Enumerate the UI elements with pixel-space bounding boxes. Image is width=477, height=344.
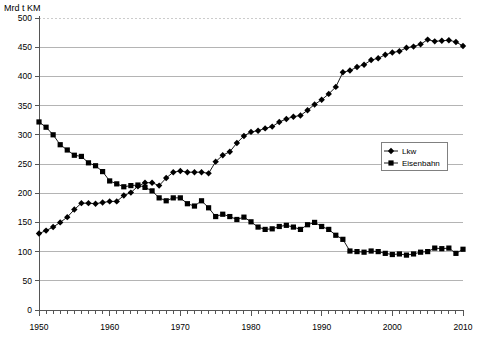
data-point-marker: [248, 219, 253, 224]
data-point-marker: [142, 185, 147, 190]
data-point-marker: [361, 250, 366, 255]
data-point-marker: [128, 183, 133, 188]
y-tick-label: 100: [18, 247, 32, 257]
data-point-marker: [206, 205, 211, 210]
data-point-marker: [72, 153, 77, 158]
data-point-marker: [149, 179, 155, 185]
y-tick-label: 450: [18, 42, 32, 52]
chart-container: Mrd t KM 0501001502002503003504004505001…: [0, 0, 477, 344]
x-tick-label: 2000: [383, 322, 402, 332]
data-point-marker: [43, 125, 48, 130]
data-point-marker: [192, 203, 197, 208]
data-point-marker: [36, 119, 41, 124]
x-tick-label: 1950: [30, 322, 49, 332]
data-point-marker: [248, 129, 254, 135]
data-point-marker: [375, 55, 381, 61]
data-point-marker: [199, 198, 204, 203]
data-point-marker: [389, 49, 395, 55]
data-point-marker: [403, 45, 409, 51]
data-point-marker: [460, 43, 466, 49]
data-point-marker: [404, 253, 409, 258]
data-point-marker: [369, 248, 374, 253]
data-point-marker: [446, 37, 452, 43]
y-tick-label: 0: [27, 305, 32, 315]
data-point-marker: [383, 251, 388, 256]
y-tick-label: 250: [18, 159, 32, 169]
data-point-marker: [290, 113, 296, 119]
x-ticks: 1950196019701980199020002010: [30, 310, 473, 332]
data-point-marker: [100, 169, 105, 174]
data-point-marker: [262, 125, 268, 131]
data-point-marker: [453, 251, 458, 256]
y-tick-label: 150: [18, 217, 32, 227]
data-point-marker: [92, 201, 98, 207]
data-point-marker: [178, 195, 183, 200]
data-point-marker: [51, 132, 56, 137]
data-point-marker: [298, 227, 303, 232]
data-point-marker: [85, 200, 91, 206]
data-point-marker: [411, 251, 416, 256]
data-point-marker: [439, 246, 444, 251]
data-point-marker: [340, 69, 346, 75]
data-point-marker: [241, 215, 246, 220]
data-point-marker: [276, 119, 282, 125]
y-tick-label: 300: [18, 130, 32, 140]
data-point-marker: [36, 230, 42, 236]
data-point-marker: [227, 214, 232, 219]
data-point-marker: [284, 223, 289, 228]
data-point-marker: [198, 169, 204, 175]
data-point-marker: [418, 250, 423, 255]
data-point-marker: [305, 222, 310, 227]
data-point-marker: [376, 249, 381, 254]
data-point-marker: [388, 160, 393, 165]
data-point-marker: [50, 224, 56, 230]
data-point-marker: [312, 220, 317, 225]
data-point-marker: [439, 38, 445, 44]
legend: LkwEisenbahn: [381, 142, 447, 170]
data-point-marker: [121, 184, 126, 189]
data-point-marker: [326, 227, 331, 232]
data-point-marker: [410, 43, 416, 49]
x-tick-label: 1990: [312, 322, 331, 332]
data-point-marker: [106, 198, 112, 204]
data-point-marker: [354, 64, 360, 70]
data-point-marker: [297, 112, 303, 118]
data-point-marker: [263, 227, 268, 232]
data-point-marker: [93, 163, 98, 168]
series-eisenbahn: [36, 119, 465, 257]
data-point-marker: [79, 154, 84, 159]
data-point-marker: [368, 57, 374, 63]
data-point-marker: [269, 123, 275, 129]
data-point-marker: [164, 198, 169, 203]
data-point-marker: [347, 248, 352, 253]
y-tick-label: 400: [18, 71, 32, 81]
data-point-marker: [191, 169, 197, 175]
data-point-marker: [361, 62, 367, 68]
data-point-marker: [291, 224, 296, 229]
data-point-marker: [333, 233, 338, 238]
data-point-marker: [397, 251, 402, 256]
data-point-marker: [184, 169, 190, 175]
data-point-marker: [65, 147, 70, 152]
line-chart: 0501001502002503003504004505001950196019…: [0, 0, 477, 344]
data-point-marker: [283, 116, 289, 122]
legend-label: Lkw: [402, 147, 416, 156]
data-point-marker: [432, 38, 438, 44]
data-point-marker: [86, 160, 91, 165]
data-point-marker: [424, 36, 430, 42]
data-point-marker: [255, 128, 261, 134]
data-point-marker: [149, 188, 154, 193]
x-tick-label: 1970: [171, 322, 190, 332]
data-point-marker: [425, 249, 430, 254]
data-point-marker: [255, 224, 260, 229]
data-point-marker: [107, 178, 112, 183]
x-tick-label: 2010: [454, 322, 473, 332]
data-point-marker: [319, 224, 324, 229]
data-point-marker: [220, 212, 225, 217]
data-point-marker: [354, 249, 359, 254]
data-point-marker: [460, 247, 465, 252]
data-point-marker: [396, 48, 402, 54]
data-point-marker: [205, 170, 211, 176]
y-tick-label: 200: [18, 188, 32, 198]
data-point-marker: [453, 39, 459, 45]
